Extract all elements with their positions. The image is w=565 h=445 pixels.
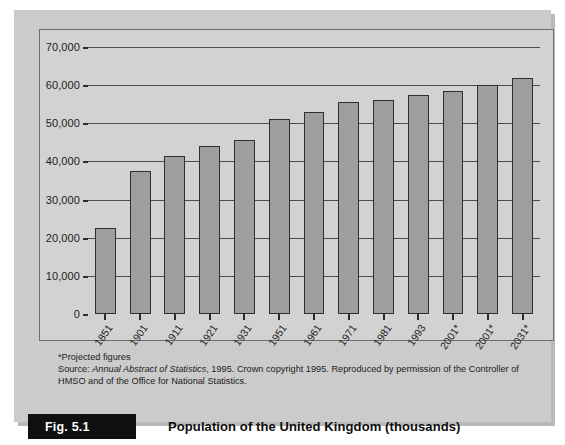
x-label-slot: 1851 [88,320,123,362]
bar-slot [297,47,332,314]
bar [338,102,359,314]
bar-slot [436,47,471,314]
bar [477,85,498,314]
source-prefix: Source: [58,364,92,374]
x-label-slot: 2031* [505,320,540,362]
bar-slot [227,47,262,314]
y-tick-label: 30,000 [20,194,80,206]
x-tick-label: 1851 [92,322,115,348]
bar [269,119,290,314]
figure-page: 010,00020,00030,00040,00050,00060,00070,… [0,0,565,445]
x-label-slot: 1921 [192,320,227,362]
x-label-slot: 2001* [470,320,505,362]
x-tick-label: 1931 [231,322,254,348]
x-tick-label: 1971 [335,322,358,348]
figure-title: Population of the United Kingdom (thousa… [168,414,461,439]
x-tick-label: 1981 [370,322,393,348]
bar-slot [262,47,297,314]
y-tick-label: 20,000 [20,232,80,244]
bar-slot [401,47,436,314]
y-tick-label: 0 [20,308,80,320]
figure-footer: Fig. 5.1 Population of the United Kingdo… [28,414,565,444]
bar [95,228,116,314]
y-tick-label: 70,000 [20,41,80,53]
x-label-slot: 1931 [227,320,262,362]
x-label-slot: 2001* [436,320,471,362]
source-line: Source: Annual Abstract of Statistics, 1… [58,363,538,387]
x-label-slot: 1961 [297,320,332,362]
x-tick-label: 1911 [162,322,185,347]
bar-slot [192,47,227,314]
y-tick-label: 60,000 [20,79,80,91]
x-tick-label: 1901 [127,322,150,348]
x-tick-label: 1993 [405,322,428,348]
figure-number-badge: Fig. 5.1 [28,414,136,439]
bar-slot [505,47,540,314]
bar-slot [470,47,505,314]
bar [130,171,151,314]
x-label-slot: 1951 [262,320,297,362]
y-tick-label: 50,000 [20,117,80,129]
bar-slot [158,47,193,314]
bar-slot [366,47,401,314]
bar [234,140,255,314]
bar [443,91,464,314]
x-label-slot: 1971 [331,320,366,362]
bar [408,95,429,314]
x-label-slot: 1981 [366,320,401,362]
page-panel: 010,00020,00030,00040,00050,00060,00070,… [14,10,551,422]
x-tick-label: 1951 [266,322,289,348]
x-tick-label: 2001* [472,322,498,351]
bar [199,146,220,314]
x-axis-labels: 1851190119111921193119511961197119811993… [88,320,540,362]
bar-series [88,47,540,314]
x-tick-label: 2001* [437,322,463,351]
x-label-slot: 1993 [401,320,436,362]
bar [373,100,394,314]
bar [164,156,185,314]
x-label-slot: 1911 [158,320,193,362]
source-publication: Annual Abstract of Statistics [92,364,206,374]
y-tick-label: 40,000 [20,155,80,167]
y-tick-label: 10,000 [20,270,80,282]
bar [304,112,325,314]
x-tick-label: 2031* [507,322,533,351]
bar-slot [123,47,158,314]
bar-slot [331,47,366,314]
x-tick-label: 1921 [196,322,219,348]
x-tick-label: 1961 [301,322,324,348]
bar-slot [88,47,123,314]
x-label-slot: 1901 [123,320,158,362]
bar [512,78,533,314]
